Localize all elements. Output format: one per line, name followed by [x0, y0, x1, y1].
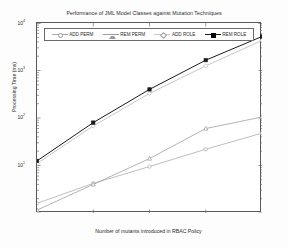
- legend-label-rem-role: REM ROLE: [222, 32, 246, 37]
- legend-label-add-role: ADD ROLE: [172, 32, 196, 37]
- x-axis-label: Number of mutants introduced in RBAC Pol…: [36, 228, 261, 234]
- chart-title: Performance of JML Model Classes against…: [0, 10, 288, 16]
- legend-label-rem-perm: REM PERM: [120, 32, 145, 37]
- y-tick-label-10000: 104: [1, 19, 25, 26]
- add-role-swatch-icon: [154, 32, 170, 38]
- rem-perm-swatch-icon: [103, 32, 119, 38]
- legend-label-add-perm: ADD PERM: [69, 32, 93, 37]
- legend-item-rem-role[interactable]: REM ROLE: [205, 32, 247, 38]
- legend-item-rem-perm[interactable]: REM PERM: [103, 32, 145, 38]
- y-tick-label-10: 101: [1, 161, 25, 168]
- plot-svg: [37, 23, 262, 213]
- y-axis-label: Processing Time (ms): [11, 17, 17, 157]
- add-perm-swatch-icon: [52, 32, 68, 38]
- y-tick-label-1000: 103: [1, 66, 25, 73]
- legend-item-add-perm[interactable]: ADD PERM: [52, 32, 94, 38]
- plot-area: [36, 22, 261, 212]
- figure-canvas: Performance of JML Model Classes against…: [0, 0, 288, 248]
- legend-item-add-role[interactable]: ADD ROLE: [154, 32, 195, 38]
- y-tick-label-100: 102: [1, 113, 25, 120]
- legend: ADD PERM REM PERM ADD ROLE REM ROLE: [44, 28, 254, 41]
- rem-role-swatch-icon: [205, 32, 221, 38]
